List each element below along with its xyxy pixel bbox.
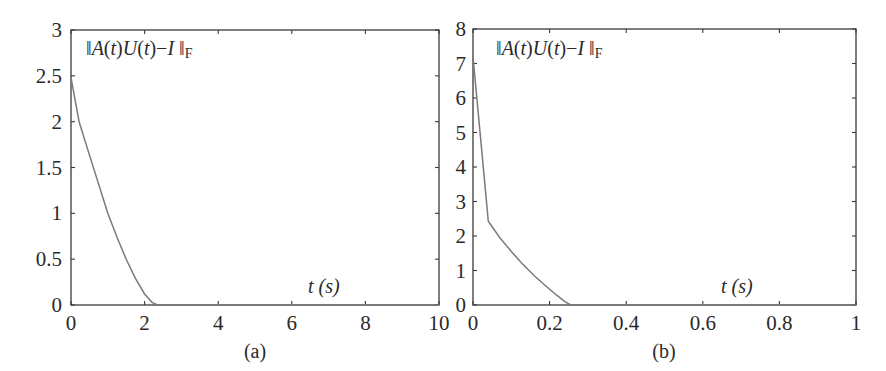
axis-ticks [71,30,439,305]
chart-panel-b: 00.20.40.60.81 012345678 ‖A(t)U(t)−I ‖F … [456,17,862,363]
plot-frame [71,30,439,305]
data-series-line [473,57,856,305]
y-tick-label: 1.5 [36,156,62,180]
x-tick-labels: 00.20.40.60.81 [468,311,862,335]
y-tick-label: 2.5 [36,64,62,88]
y-tick-label: 0 [456,293,467,317]
x-axis-label: t (s) [721,275,753,298]
figure: 0246810 00.511.522.53 ‖A(t)U(t)−I ‖F t (… [0,0,886,371]
series-annotation: ‖A(t)U(t)−I ‖F [86,37,193,61]
x-tick-label: 4 [213,311,224,335]
y-tick-label: 0.5 [36,247,62,271]
x-tick-label: 0 [66,311,77,335]
figure-caption: (b) [652,340,675,363]
y-tick-label: 4 [456,155,467,179]
y-tick-label: 1 [456,259,467,283]
x-tick-label: 0.4 [613,311,640,335]
x-tick-label: 0.8 [766,311,792,335]
y-tick-label: 7 [456,52,467,76]
y-tick-label: 3 [52,18,63,42]
y-tick-label: 1 [52,201,63,225]
y-tick-label: 3 [456,190,467,214]
x-tick-label: 8 [360,311,371,335]
y-tick-label: 8 [456,17,467,41]
x-tick-label: 0.6 [690,311,716,335]
axis-ticks [473,29,856,305]
y-tick-labels: 00.511.522.53 [36,18,62,317]
y-tick-labels: 012345678 [456,17,467,317]
y-tick-label: 6 [456,86,467,110]
y-tick-label: 0 [52,293,63,317]
x-tick-label: 0.2 [536,311,562,335]
figure-caption: (a) [244,340,266,363]
x-tick-label: 10 [429,311,450,335]
x-tick-label: 2 [139,311,150,335]
y-tick-label: 2 [52,110,63,134]
x-axis-label: t (s) [308,275,340,298]
plot-frame [473,29,856,305]
x-tick-label: 1 [851,311,862,335]
y-tick-label: 5 [456,121,467,145]
x-tick-label: 6 [287,311,298,335]
chart-panel-a: 0246810 00.511.522.53 ‖A(t)U(t)−I ‖F t (… [36,18,450,363]
x-tick-label: 0 [468,311,479,335]
y-tick-label: 2 [456,224,467,248]
x-tick-labels: 0246810 [66,311,450,335]
data-series-line [71,78,439,305]
series-annotation: ‖A(t)U(t)−I ‖F [496,37,603,61]
